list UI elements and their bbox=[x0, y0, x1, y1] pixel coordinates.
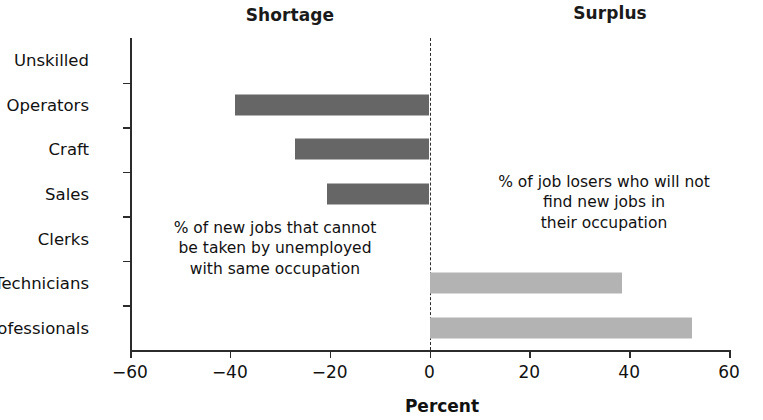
x-axis-title: Percent bbox=[362, 396, 522, 416]
y-axis-tick bbox=[123, 216, 130, 218]
annotation-shortage: % of new jobs that cannot be taken by un… bbox=[140, 218, 410, 279]
category-label-craft: Craft bbox=[49, 140, 89, 159]
x-axis-tick-label: 40 bbox=[599, 362, 659, 382]
chart-figure: Shortage Surplus UnskilledOperatorsCraft… bbox=[0, 0, 763, 420]
x-axis-tick-label: 60 bbox=[699, 362, 759, 382]
x-axis-tick-label: −20 bbox=[300, 362, 360, 382]
x-axis-tick bbox=[230, 350, 232, 358]
x-axis-tick bbox=[330, 350, 332, 358]
category-label-operators: Operators bbox=[7, 95, 89, 114]
shortage-header: Shortage bbox=[200, 5, 380, 25]
y-axis-spine bbox=[130, 38, 132, 350]
bar-craft bbox=[295, 139, 430, 160]
category-label-unskilled: Unskilled bbox=[14, 51, 89, 70]
x-axis-tick-label: 0 bbox=[400, 362, 460, 382]
x-axis-tick bbox=[130, 350, 132, 358]
y-axis-tick bbox=[123, 172, 130, 174]
x-axis-tick bbox=[729, 350, 731, 358]
bar-professionals bbox=[430, 317, 692, 338]
category-label-sales: Sales bbox=[45, 185, 89, 204]
x-axis-tick bbox=[629, 350, 631, 358]
x-axis-tick bbox=[529, 350, 531, 358]
category-label-technicians: Technicians bbox=[0, 274, 89, 293]
surplus-header: Surplus bbox=[520, 3, 700, 23]
y-axis-tick bbox=[123, 305, 130, 307]
category-label-clerks: Clerks bbox=[38, 229, 89, 248]
zero-reference-line bbox=[430, 38, 431, 350]
bar-technicians bbox=[430, 273, 622, 294]
annotation-surplus: % of job losers who will not find new jo… bbox=[470, 172, 738, 233]
x-axis-tick-label: −40 bbox=[200, 362, 260, 382]
x-axis-tick-label: 20 bbox=[499, 362, 559, 382]
y-axis-tick bbox=[123, 127, 130, 129]
category-label-professionals: Professionals bbox=[0, 318, 89, 337]
bar-sales bbox=[327, 184, 429, 205]
x-axis-tick bbox=[430, 350, 432, 358]
bar-operators bbox=[235, 94, 430, 115]
x-axis-tick-label: −60 bbox=[100, 362, 160, 382]
y-axis-tick bbox=[123, 83, 130, 85]
y-axis-tick bbox=[123, 261, 130, 263]
